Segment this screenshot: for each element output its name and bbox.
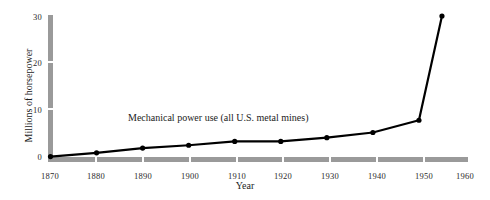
chart-figure: 30 20 10 0 1870 1880 1890 1900 1910 1920… — [0, 0, 490, 200]
data-point — [232, 139, 237, 144]
data-point — [324, 135, 329, 140]
data-point — [186, 143, 191, 148]
data-point — [48, 154, 53, 159]
data-point — [416, 118, 421, 123]
data-point — [94, 150, 99, 155]
series-markers — [48, 13, 445, 159]
data-point — [439, 13, 444, 18]
data-point — [278, 139, 283, 144]
series-line-mechanical-power — [51, 16, 442, 157]
plot-area — [0, 0, 490, 200]
data-point — [140, 145, 145, 150]
data-point — [370, 130, 375, 135]
